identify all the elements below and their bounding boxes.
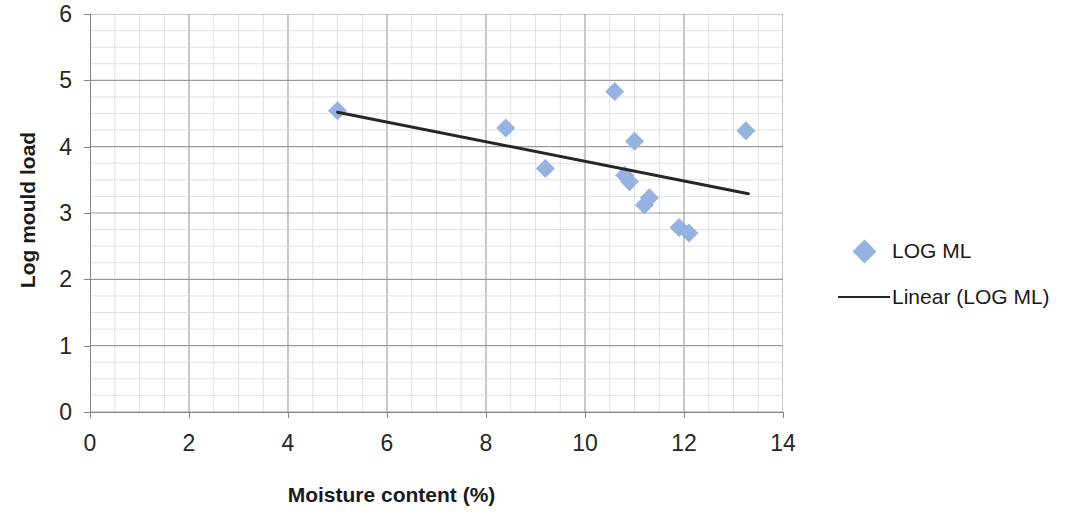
y-axis-tick-label: 1 [38,335,72,358]
x-axis-line [90,412,783,413]
y-axis-title: Log mould load [16,90,40,330]
x-axis-tick-label: 0 [60,432,120,455]
y-axis-title-wrap: Log mould load [0,14,30,412]
y-axis-tick-label: 3 [38,202,72,225]
y-axis-tick [84,279,90,280]
x-axis-title: Moisture content (%) [0,483,783,507]
x-axis-tick-label: 14 [753,432,813,455]
y-axis-tick-label: 6 [38,3,72,26]
y-axis-tick-label: 4 [38,136,72,159]
y-axis-tick [84,346,90,347]
x-axis-tick [90,412,91,418]
data-layer [90,14,783,412]
x-axis-tick-label: 6 [357,432,417,455]
x-axis-tick-label: 8 [456,432,516,455]
x-axis-tick [387,412,388,418]
y-axis-line [90,14,91,412]
y-axis-tick [84,14,90,15]
plot-area [90,14,783,412]
x-axis-tick-label: 10 [555,432,615,455]
x-axis-tick [783,412,784,418]
legend-item-log-ml[interactable]: LOG ML [836,228,1068,274]
legend-item-label: LOG ML [892,239,971,263]
y-axis-tick [84,147,90,148]
y-axis-tick-label: 0 [38,401,72,424]
x-axis-tick [486,412,487,418]
y-axis-tick [84,80,90,81]
x-axis-tick-label: 4 [258,432,318,455]
y-axis-tick [84,213,90,214]
y-axis-tick-label: 2 [38,268,72,291]
diamond-marker-icon [836,243,892,260]
line-marker-icon [836,296,892,298]
y-axis-tick [84,412,90,413]
legend-item-label: Linear (LOG ML) [892,285,1050,309]
x-axis-tick [585,412,586,418]
y-axis-tick-label: 5 [38,69,72,92]
x-axis-tick-label: 2 [159,432,219,455]
x-axis-tick [288,412,289,418]
x-axis-tick-label: 12 [654,432,714,455]
x-axis-tick [189,412,190,418]
scatter-chart: 024681012140123456 Moisture content (%) … [0,0,1068,517]
legend-item-linear-log-ml[interactable]: Linear (LOG ML) [836,274,1068,320]
x-axis-tick [684,412,685,418]
legend: LOG ML Linear (LOG ML) [836,228,1068,320]
